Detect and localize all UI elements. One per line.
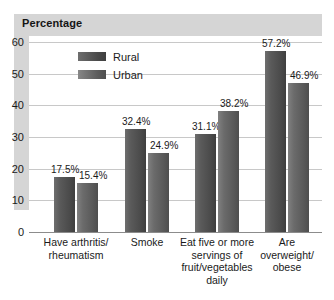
plot-area: 0102030405060 17.5%15.4%32.4%24.9%31.1%3… — [29, 42, 322, 232]
legend-swatch-urban-icon — [78, 70, 106, 79]
chart-header-bar: Percentage — [14, 14, 322, 36]
bar-value-label: 32.4% — [122, 117, 150, 127]
x-axis-category-labels: Have arthritis/rheumatismSmokeEat five o… — [29, 236, 322, 298]
x-axis-label-line: daily — [167, 274, 267, 287]
bar-rural-group-0[interactable]: 17.5% — [54, 177, 75, 232]
bar-value-label: 31.1% — [192, 122, 220, 132]
y-axis-tick-label: 0 — [18, 226, 24, 238]
legend-item-urban: Urban — [78, 67, 173, 82]
y-axis-tick-label: 50 — [12, 68, 24, 80]
legend-swatch-rural-icon — [78, 52, 106, 61]
y-axis-tick-label: 40 — [12, 99, 24, 111]
x-axis-category-label: Areoverweight/obese — [248, 236, 326, 274]
bar-urban-group-3[interactable]: 46.9% — [288, 83, 309, 232]
x-axis-label-line: obese — [248, 261, 326, 274]
bar-rural-group-1[interactable]: 32.4% — [125, 129, 146, 232]
y-axis-tick-label: 10 — [12, 194, 24, 206]
legend-label-urban: Urban — [113, 69, 143, 81]
chart-legend: Rural Urban — [78, 49, 173, 85]
x-axis-category-label: Have arthritis/rheumatism — [28, 236, 124, 261]
y-axis-tick-label: 60 — [12, 36, 24, 48]
bar-urban-group-0[interactable]: 15.4% — [77, 183, 98, 232]
legend-label-rural: Rural — [113, 51, 139, 63]
chart-figure: Percentage 0102030405060 17.5%15.4%32.4%… — [0, 0, 334, 300]
bar-value-label: 15.4% — [79, 171, 107, 181]
chart-title: Percentage — [22, 17, 82, 29]
bar-urban-group-1[interactable]: 24.9% — [148, 153, 169, 232]
bar-rural-group-2[interactable]: 31.1% — [195, 134, 216, 232]
bar-value-label: 57.2% — [262, 39, 290, 49]
left-gray-band — [14, 36, 29, 210]
bar-value-label: 17.5% — [51, 165, 79, 175]
x-axis-label-line: Are — [248, 236, 326, 249]
bar-urban-group-2[interactable]: 38.2% — [218, 111, 239, 232]
x-axis-label-line: rheumatism — [28, 249, 124, 262]
bar-value-label: 46.9% — [290, 71, 318, 81]
bar-value-label: 24.9% — [150, 141, 178, 151]
legend-item-rural: Rural — [78, 49, 173, 64]
x-axis-line — [29, 232, 322, 233]
y-axis-tick-label: 20 — [12, 163, 24, 175]
x-axis-label-line: Have arthritis/ — [28, 236, 124, 249]
bar-rural-group-3[interactable]: 57.2% — [265, 51, 286, 232]
bar-value-label: 38.2% — [220, 99, 248, 109]
y-axis-tick-label: 30 — [12, 131, 24, 143]
x-axis-label-line: overweight/ — [248, 249, 326, 262]
